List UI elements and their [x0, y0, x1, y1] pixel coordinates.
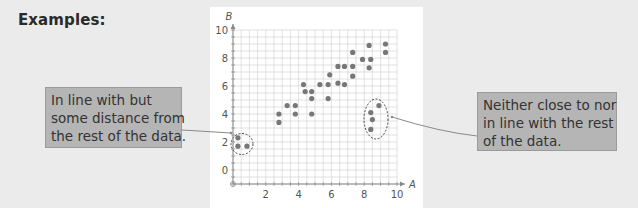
y-tick-label: 10	[215, 25, 228, 36]
callout-line: in line with the rest	[483, 114, 611, 132]
y-axis-label: B	[226, 11, 233, 22]
y-tick-label: 2	[222, 137, 228, 148]
data-point	[303, 89, 308, 94]
x-tick-label: 10	[391, 189, 404, 200]
right-leader-dot	[391, 116, 394, 119]
data-point	[285, 103, 290, 108]
data-point	[235, 135, 240, 140]
data-point	[301, 82, 306, 87]
data-point	[293, 111, 298, 116]
data-point	[360, 57, 365, 62]
data-point	[309, 111, 314, 116]
y-tick-label: 0	[222, 165, 228, 176]
x-tick-label: 4	[295, 189, 301, 200]
y-axis-arrow-icon	[231, 24, 236, 29]
data-point	[368, 57, 373, 62]
right-outlier-circle	[364, 99, 388, 139]
data-point	[383, 50, 388, 55]
data-point	[342, 82, 347, 87]
y-tick-label: 8	[222, 53, 228, 64]
axis-labels: 2468100246810AB	[215, 11, 416, 200]
data-point	[326, 96, 331, 101]
data-point	[342, 64, 347, 69]
data-point	[293, 103, 298, 108]
plot-grid	[233, 30, 397, 184]
data-point	[350, 50, 355, 55]
right-leader-line	[392, 117, 477, 136]
left-leader-line	[182, 130, 231, 133]
x-tick-label: 8	[361, 189, 367, 200]
data-point	[335, 64, 340, 69]
data-point	[368, 110, 373, 115]
data-point	[317, 82, 322, 87]
callout-off-line-outliers: Neither close to nor in line with the re…	[477, 92, 617, 151]
y-tick-label: 4	[222, 109, 228, 120]
callout-line: some distance from	[51, 109, 176, 127]
data-point	[276, 111, 281, 116]
x-tick-label: 2	[263, 189, 269, 200]
data-point	[350, 74, 355, 79]
data-point	[309, 89, 314, 94]
x-tick-label: 6	[328, 189, 334, 200]
data-point	[383, 41, 388, 46]
x-axis-arrow-icon	[400, 182, 405, 187]
left-leader-dot	[230, 132, 233, 135]
data-point	[350, 64, 355, 69]
x-axis-label: A	[408, 179, 416, 190]
callout-in-line-outliers: In line with but some distance from the …	[45, 87, 182, 148]
callout-line: In line with but	[51, 91, 176, 109]
data-point	[335, 81, 340, 86]
data-point	[309, 96, 314, 101]
data-points	[235, 41, 388, 148]
data-point	[367, 65, 372, 70]
callout-line: Neither close to nor	[483, 96, 611, 114]
data-point	[326, 82, 331, 87]
callout-line: of the data.	[483, 132, 611, 150]
callout-line: the rest of the data.	[51, 127, 176, 145]
data-point	[367, 43, 372, 48]
data-point	[235, 144, 240, 149]
data-point	[327, 72, 332, 77]
data-point	[368, 127, 373, 132]
data-point	[370, 117, 375, 122]
data-point	[376, 103, 381, 108]
data-point	[276, 120, 281, 125]
y-tick-label: 6	[222, 81, 228, 92]
data-point	[244, 144, 249, 149]
